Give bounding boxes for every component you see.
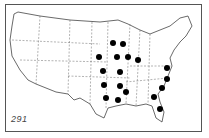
figure-number: 291 — [11, 114, 28, 124]
location-marker — [157, 106, 163, 112]
state-borders — [12, 16, 172, 108]
location-marker — [100, 68, 106, 74]
location-marker — [117, 69, 123, 75]
location-marker — [164, 65, 170, 71]
location-marker — [135, 57, 141, 63]
location-marker — [115, 97, 121, 103]
location-marker — [164, 76, 170, 82]
location-marker — [159, 85, 165, 91]
location-marker — [125, 54, 131, 60]
location-marker — [151, 94, 157, 100]
location-marker — [101, 82, 107, 88]
location-marker — [120, 41, 126, 47]
location-marker — [96, 54, 102, 60]
location-marker — [117, 83, 123, 89]
location-marker — [123, 89, 129, 95]
location-marker — [110, 40, 116, 46]
location-marker — [103, 95, 109, 101]
us-map — [0, 0, 209, 138]
location-marker — [114, 54, 120, 60]
